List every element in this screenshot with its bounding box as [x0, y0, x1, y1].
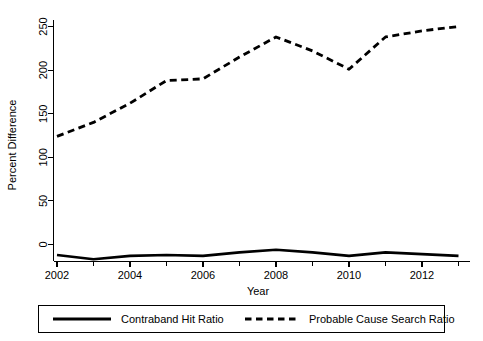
- y-tick-label-100: 100: [37, 148, 49, 166]
- line-chart: Percent Difference 0 50 100 150 200 250 …: [0, 0, 483, 341]
- y-tick-label-250: 250: [37, 17, 49, 35]
- chart-legend: Contraband Hit Ratio Probable Cause Sear…: [39, 306, 455, 333]
- y-tick-label-150: 150: [37, 105, 49, 123]
- x-axis-title: Year: [247, 285, 270, 297]
- x-tick-label-2004: 2004: [118, 269, 142, 281]
- x-axis-ticks: 2002 2004 2006 2008 2010 2012: [45, 262, 459, 282]
- x-tick-label-2008: 2008: [264, 269, 288, 281]
- y-axis-title: Percent Difference: [6, 100, 18, 191]
- series-contraband-hit-ratio: [57, 250, 459, 260]
- legend-label-probable-cause-search-ratio: Probable Cause Search Ratio: [309, 313, 455, 325]
- y-tick-label-200: 200: [37, 61, 49, 79]
- y-tick-label-50: 50: [37, 195, 49, 207]
- x-tick-label-2006: 2006: [191, 269, 215, 281]
- y-axis-ticks: 0 50 100 150 200 250: [37, 17, 54, 247]
- x-tick-label-2002: 2002: [45, 269, 69, 281]
- chart-figure: Percent Difference 0 50 100 150 200 250 …: [0, 0, 483, 341]
- x-tick-label-2012: 2012: [410, 269, 434, 281]
- x-tick-label-2010: 2010: [337, 269, 361, 281]
- y-tick-label-0: 0: [37, 241, 49, 247]
- series-probable-cause-search-ratio: [57, 27, 459, 137]
- legend-label-contraband-hit-ratio: Contraband Hit Ratio: [121, 313, 224, 325]
